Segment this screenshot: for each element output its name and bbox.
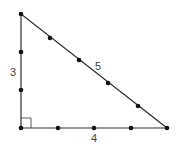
dot-point <box>19 126 24 131</box>
label-side-5: 5 <box>95 60 101 72</box>
dot-point <box>136 104 141 109</box>
side-labels: 3 4 5 <box>10 60 101 144</box>
dot-point <box>48 36 53 41</box>
dot-point <box>19 50 24 55</box>
label-side-4: 4 <box>91 132 97 144</box>
triangle-diagram: 3 4 5 <box>0 0 180 149</box>
dot-point <box>106 81 111 86</box>
dot-point <box>165 126 170 131</box>
dot-point <box>92 126 97 131</box>
dot-point <box>129 126 134 131</box>
dot-point <box>56 126 61 131</box>
dot-point <box>19 12 24 17</box>
dot-point <box>19 88 24 93</box>
label-side-3: 3 <box>10 66 16 78</box>
dot-point <box>77 58 82 63</box>
